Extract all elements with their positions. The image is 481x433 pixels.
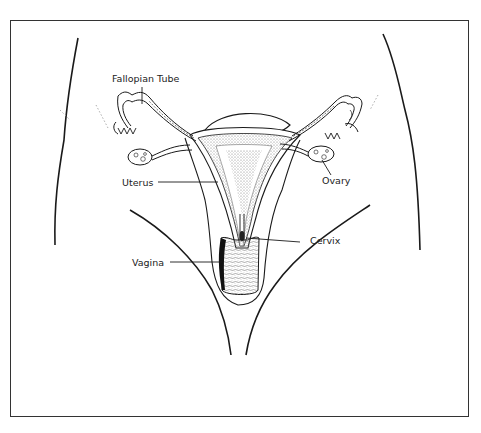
label-ovary: Ovary — [322, 176, 350, 186]
fallopian-tube-right — [289, 96, 362, 141]
anatomy-diagram: Fallopian Tube Uterus Ovary Cervix Vagin… — [0, 0, 481, 433]
fallopian-tube-left — [114, 92, 196, 141]
anatomy-illustration — [0, 0, 481, 433]
label-vagina: Vagina — [132, 258, 164, 268]
leader-ovary — [322, 160, 331, 175]
label-cervix: Cervix — [310, 236, 340, 246]
label-uterus: Uterus — [122, 178, 153, 188]
ovary-left — [128, 145, 192, 165]
label-fallopian-tube: Fallopian Tube — [112, 74, 179, 84]
uterus — [190, 114, 300, 248]
vagina — [219, 237, 259, 294]
